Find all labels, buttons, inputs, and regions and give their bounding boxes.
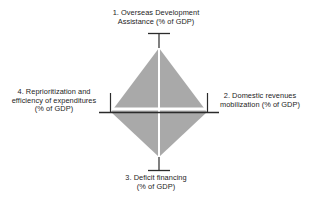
axis-label-domestic-revenues-mobilization: 2. Domestic revenues mobilization (% of …: [208, 92, 312, 109]
axis-label-reprioritization-efficiency-expenditures: 4. Reprioritization and efficiency of ex…: [2, 88, 106, 114]
axis-label-overseas-development-assistance: 1. Overseas Development Assistance (% of…: [88, 9, 224, 26]
diagram-canvas: 1. Overseas Development Assistance (% of…: [0, 0, 313, 202]
axis-label-deficit-financing: 3. Deficit financing (% of GDP): [88, 174, 224, 191]
